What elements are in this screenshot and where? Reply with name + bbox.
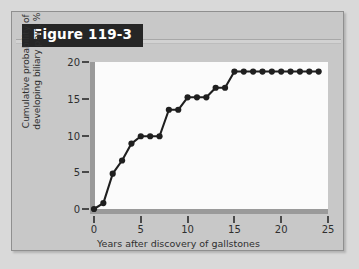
chart-area: 05101520 0510152025 Years after discover… [12,12,345,252]
x-tick-mark [327,216,329,223]
y-tick-mark [82,208,89,210]
x-tick-label: 20 [275,224,288,235]
x-axis-spine [90,209,328,214]
data-point-marker [259,68,265,74]
y-tick-label: 10 [56,130,80,141]
x-tick-mark [187,216,189,223]
data-point-marker [147,133,153,139]
series-markers [91,68,322,212]
data-point-marker [222,85,228,91]
data-point-marker [138,133,144,139]
x-tick-label: 0 [91,224,97,235]
data-point-marker [297,68,303,74]
x-tick-label: 15 [228,224,241,235]
y-tick-mark [82,171,89,173]
data-point-marker [91,206,97,212]
y-tick-mark [82,61,89,63]
y-tick-label: 15 [56,93,80,104]
x-tick-mark [280,216,282,223]
y-tick-label: 20 [56,57,80,68]
x-tick-label: 25 [322,224,335,235]
x-tick-mark [93,216,95,223]
x-tick-mark [233,216,235,223]
y-axis-label-text: Cumulative probability of developing bil… [21,0,44,146]
x-tick-label: 10 [181,224,194,235]
data-point-marker [166,107,172,113]
data-point-marker [194,94,200,100]
data-point-marker [316,68,322,74]
data-point-marker [185,94,191,100]
data-point-marker [269,68,275,74]
data-point-marker [250,68,256,74]
x-tick-label: 5 [138,224,144,235]
y-axis-label: Cumulative probability of developing bil… [21,0,44,146]
y-tick-mark [82,98,89,100]
data-point-marker [213,85,219,91]
data-point-marker [156,133,162,139]
data-point-marker [203,94,209,100]
data-series-plot [94,62,328,209]
data-point-marker [100,200,106,206]
data-point-marker [110,171,116,177]
data-point-marker [119,157,125,163]
data-point-marker [128,140,134,146]
data-point-marker [241,68,247,74]
figure-panel: Figure 119-3 05101520 0510152025 Years a… [11,11,344,251]
data-point-marker [278,68,284,74]
data-point-marker [306,68,312,74]
data-point-marker [175,107,181,113]
x-axis-label: Years after discovery of gallstones [12,238,345,249]
y-tick-label: 5 [56,167,80,178]
y-tick-mark [82,135,89,137]
data-point-marker [231,68,237,74]
data-point-marker [287,68,293,74]
x-tick-mark [140,216,142,223]
series-line [94,72,319,209]
y-tick-label: 0 [56,204,80,215]
